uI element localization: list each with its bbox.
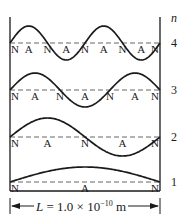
wave-curve xyxy=(10,167,160,182)
node-label: N xyxy=(56,90,64,102)
mode-1: NAN1 xyxy=(10,167,177,194)
node-label: N xyxy=(11,182,19,194)
antinode-label: A xyxy=(25,43,33,55)
modes-group: NANANANAN4NANANAN3NANAN2NAN1 xyxy=(10,26,177,194)
node-label: N xyxy=(151,43,159,55)
antinode-label: A xyxy=(44,137,52,149)
length-exponent: −10 xyxy=(100,199,113,208)
length-unit: m xyxy=(113,199,126,214)
node-label: N xyxy=(119,43,127,55)
node-label: N xyxy=(11,43,19,55)
arrow-right-icon xyxy=(150,203,159,209)
length-value: = 1.0 × 10 xyxy=(43,199,100,214)
node-label: N xyxy=(81,137,89,149)
n-axis-header: n xyxy=(171,11,177,25)
mode-number-label: 1 xyxy=(171,175,177,189)
node-label: N xyxy=(11,90,19,102)
mode-number-label: 2 xyxy=(171,130,177,144)
mode-3: NANANAN3 xyxy=(10,73,177,107)
antinode-label: A xyxy=(81,182,89,194)
mode-number-label: 4 xyxy=(171,36,177,50)
antinode-label: A xyxy=(62,43,70,55)
node-label: N xyxy=(44,43,52,55)
antinode-label: A xyxy=(137,43,145,55)
length-label: L = 1.0 × 10−10 m xyxy=(35,199,126,214)
antinode-label: A xyxy=(31,90,39,102)
length-symbol: L xyxy=(35,199,43,214)
standing-wave-diagram: NANANANAN4NANANAN3NANAN2NAN1 n L = 1.0 ×… xyxy=(0,0,192,221)
antinode-label: A xyxy=(81,90,89,102)
mode-4: NANANANAN4 xyxy=(10,26,177,60)
antinode-label: A xyxy=(119,137,127,149)
node-label: N xyxy=(151,90,159,102)
node-label: N xyxy=(151,137,159,149)
antinode-label: A xyxy=(131,90,139,102)
node-label: N xyxy=(11,137,19,149)
arrow-left-icon xyxy=(11,203,20,209)
node-label: N xyxy=(81,43,89,55)
node-label: N xyxy=(106,90,114,102)
antinode-label: A xyxy=(100,43,108,55)
mode-number-label: 3 xyxy=(171,83,177,97)
node-label: N xyxy=(151,182,159,194)
mode-2: NANAN2 xyxy=(10,118,177,156)
